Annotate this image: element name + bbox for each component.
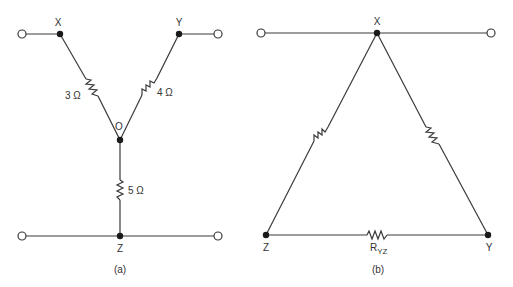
caption-b: (b) [372,264,384,275]
resistor-5-ohm [117,180,123,200]
node-z-label-b: Z [263,242,269,253]
node-x-label: X [55,17,62,28]
wire-x-y-lower [439,144,488,235]
wire-x-o-upper [60,34,86,79]
node-y-dot [176,31,182,37]
terminal-open-top-right-b [487,29,495,37]
wire-y-o-upper [157,34,179,78]
wire-x-y-upper [377,33,426,127]
node-y-label-b: Y [486,242,493,253]
terminal-open-top-left-b [257,29,265,37]
wye-network: X Y O Z 3 Ω 4 Ω 5 Ω (a) [18,17,222,275]
terminal-open-top-right [214,30,222,38]
resistor-3-ohm [86,79,98,96]
node-x-dot [57,31,63,37]
wire-x-z-upper [328,33,377,127]
resistor-xz [314,127,328,141]
resistor-ryz-subscript: YZ [377,247,387,256]
wire-x-o-lower [98,96,120,140]
node-o-dot [117,137,123,143]
delta-network: X Z Y RYZ (b) [257,16,495,275]
resistor-ryz-label: RYZ [370,242,388,256]
caption-a: (a) [114,264,126,275]
wire-x-z-lower [266,141,314,235]
resistor-5-ohm-label: 5 Ω [128,185,144,196]
resistor-4-ohm [142,78,157,95]
terminal-open-top-left [18,30,26,38]
node-z-dot [117,233,123,239]
resistor-xy [426,127,439,144]
terminal-open-bottom-left [18,232,26,240]
resistor-ryz [367,231,387,239]
node-o-label: O [115,121,123,132]
resistor-ryz-main: R [370,242,377,253]
node-x-dot-b [374,30,380,36]
node-x-label-b: X [374,16,381,27]
node-y-label: Y [176,17,183,28]
node-y-dot-b [485,232,491,238]
node-z-label: Z [117,243,123,254]
terminal-open-bottom-right [214,232,222,240]
resistor-3-ohm-label: 3 Ω [65,90,81,101]
node-z-dot-b [263,232,269,238]
circuit-figure: X Y O Z 3 Ω 4 Ω 5 Ω (a) X Z Y RYZ [0,0,513,287]
wire-y-o-lower [120,95,142,140]
resistor-4-ohm-label: 4 Ω [157,87,173,98]
